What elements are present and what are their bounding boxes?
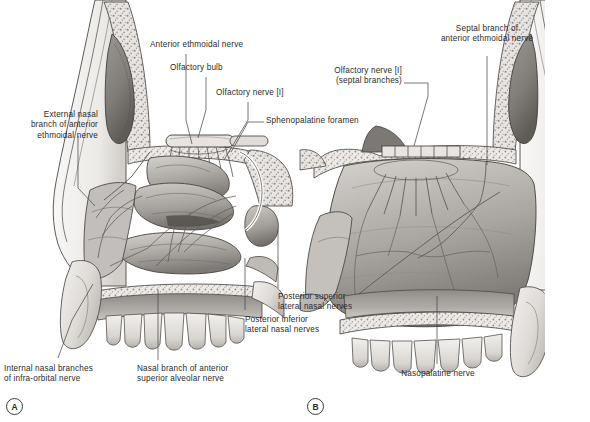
label-septal-branch: Septal branch of anterior ethmoidal nerv… <box>409 24 565 45</box>
teeth-row-a <box>106 313 244 350</box>
olfactory-bulb-shape <box>166 135 234 147</box>
label-anterior-ethmoidal-nerve: Anterior ethmoidal nerve <box>150 40 290 50</box>
label-internal-nasal-branches: Internal nasal branches of infra-orbital… <box>4 364 128 385</box>
teeth-row-b <box>352 334 502 374</box>
label-olfactory-bulb: Olfactory bulb <box>170 63 280 73</box>
label-nasal-branch-anterior-superior-alveolar: Nasal branch of anterior superior alveol… <box>137 364 267 385</box>
panel-tag-a: A <box>6 398 23 415</box>
leader-olfactory-septal-stem <box>414 83 428 146</box>
anatomy-illustration <box>0 0 590 422</box>
label-olfactory-nerve-septal: Olfactory nerve [I] (septal branches) <box>298 66 402 87</box>
anatomical-figure: External nasal branch of anterior ethmoi… <box>0 0 590 422</box>
panel-a-illustration <box>53 0 293 350</box>
label-external-nasal-branch: External nasal branch of anterior ethmoi… <box>10 110 98 141</box>
cribriform-plate-segments <box>382 146 460 157</box>
panel-tag-b: B <box>307 398 324 415</box>
leader-olfactory-bulb <box>198 77 206 138</box>
label-nasopalatine-nerve: Nasopalatine nerve <box>388 369 488 379</box>
label-olfactory-nerve: Olfactory nerve [I] <box>216 88 326 98</box>
label-sphenopalatine-foramen: Sphenopalatine foramen <box>266 116 396 126</box>
label-posterior-superior-lateral: Posterior superior lateral nasal nerves <box>278 292 390 313</box>
label-posterior-inferior-lateral: Posterior inferior lateral nasal nerves <box>245 315 357 336</box>
